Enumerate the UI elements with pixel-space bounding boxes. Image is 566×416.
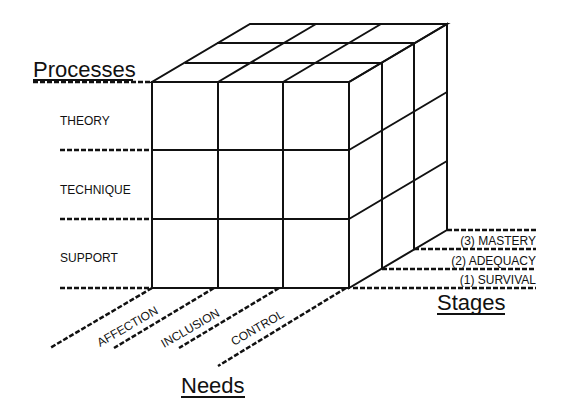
needs-title: Needs bbox=[181, 373, 245, 398]
stage-survival: (1) SURVIVAL bbox=[460, 273, 537, 287]
processes-title: Processes bbox=[33, 57, 136, 82]
cube-diagram: Processes Needs Stages THEORY TECHNIQUE … bbox=[0, 0, 566, 416]
process-support: SUPPORT bbox=[60, 251, 118, 265]
stages-title: Stages bbox=[437, 290, 506, 315]
need-control: CONTROL bbox=[229, 307, 287, 349]
cube bbox=[152, 24, 447, 288]
process-technique: TECHNIQUE bbox=[60, 183, 131, 197]
stage-adequacy: (2) ADEQUACY bbox=[451, 254, 536, 268]
process-theory: THEORY bbox=[60, 114, 110, 128]
stage-mastery: (3) MASTERY bbox=[460, 234, 536, 248]
front-face bbox=[152, 82, 349, 288]
